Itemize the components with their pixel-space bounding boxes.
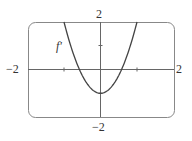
x-max-label: 2 [176, 62, 182, 76]
y-min-label: −2 [92, 120, 105, 134]
curve-label: f' [56, 39, 62, 53]
chart: 2 −2 −2 2 f' [0, 0, 192, 141]
x-min-label: −2 [6, 62, 19, 76]
y-max-label: 2 [96, 7, 102, 21]
